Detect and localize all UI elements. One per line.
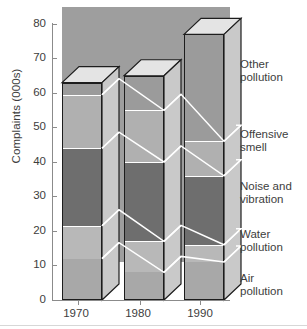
x-tick-mark-1970 — [78, 300, 79, 305]
legend-item-noise-and-vibration: Noise and vibration — [240, 180, 307, 205]
bar-side-face-1970 — [102, 67, 119, 300]
x-tick-mark-1990 — [200, 300, 201, 305]
x-tick-label-1990: 1990 — [180, 307, 220, 319]
x-tick-mark-1980 — [140, 300, 141, 305]
legend-label-line2: pollution — [240, 285, 307, 298]
legend-label-line2: pollution — [240, 241, 307, 254]
x-tick-label-1980: 1980 — [118, 307, 158, 319]
legend-item-air-pollution: Air pollution — [240, 272, 307, 297]
legend-item-offensive-smell: Offensive smell — [240, 128, 307, 153]
legend-label-line2: pollution — [240, 71, 307, 84]
legend-item-water-pollution: Water pollution — [240, 228, 307, 253]
legend-label-line2: vibration — [240, 193, 307, 206]
bottom-divider — [0, 325, 307, 326]
legend-label-line2: smell — [240, 141, 307, 154]
legend-label-line1: Air — [240, 272, 307, 285]
legend-label-line1: Water — [240, 228, 307, 241]
legend-label-line1: Offensive — [240, 128, 307, 141]
legend-label-line1: Other — [240, 58, 307, 71]
stacked-bar-chart: Complaints (000s) 80 70 60 50 40 30 20 1… — [0, 0, 307, 329]
legend-label-line1: Noise and — [240, 180, 307, 193]
legend-item-other-pollution: Other pollution — [240, 58, 307, 83]
x-tick-label-1970: 1970 — [56, 307, 96, 319]
